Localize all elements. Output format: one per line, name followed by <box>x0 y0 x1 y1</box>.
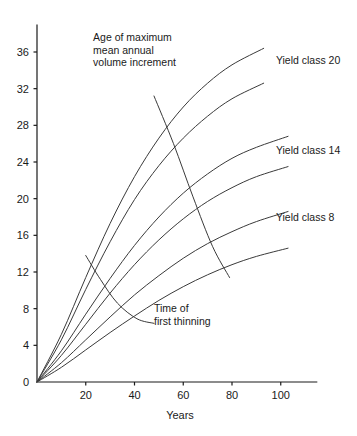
y-tick-label: 36 <box>17 46 29 58</box>
x-axis-title: Years <box>166 409 194 421</box>
series-label: Yield class 8 <box>276 211 335 223</box>
y-tick-label: 16 <box>17 229 29 241</box>
y-tick-label: 8 <box>23 303 29 315</box>
y-tick-label: 32 <box>17 83 29 95</box>
x-tick-label: 80 <box>226 389 238 401</box>
x-tick-label: 100 <box>272 389 290 401</box>
y-tick-label: 0 <box>23 376 29 388</box>
x-tick-label: 40 <box>128 389 140 401</box>
y-tick-label: 12 <box>17 266 29 278</box>
x-tick-label: 60 <box>177 389 189 401</box>
series-label: Yield class 14 <box>276 144 341 156</box>
y-tick-label: 20 <box>17 193 29 205</box>
y-tick-label: 4 <box>23 339 29 351</box>
series-label: Yield class 20 <box>276 54 341 66</box>
chart-figure: 04812162024283236 20406080100 Yield clas… <box>0 0 357 436</box>
y-tick-label: 24 <box>17 156 29 168</box>
y-tick-label: 28 <box>17 119 29 131</box>
x-tick-label: 20 <box>80 389 92 401</box>
yield-class-volume-chart: 04812162024283236 20406080100 Yield clas… <box>0 0 357 436</box>
